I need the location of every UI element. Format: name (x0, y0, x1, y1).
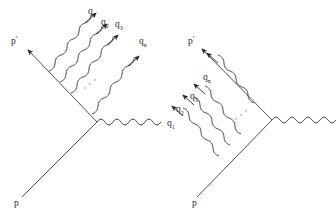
label-q1-left: q1 (88, 6, 96, 18)
label-q2-right: q2 (176, 104, 184, 116)
incoming-fermion-line-left (22, 122, 97, 197)
external-photon-left (97, 119, 161, 125)
ellipsis-right (235, 110, 247, 120)
label-q3-left: q3 (115, 19, 123, 31)
photon-line-left-3 (71, 36, 117, 93)
photon-line-left-n (92, 57, 138, 114)
label-p-left: p (14, 198, 19, 208)
photon-line-left-2 (60, 25, 106, 82)
feynman-diagram-figure: p′ p q1 q2 q3 qn (0, 0, 336, 215)
external-photon-right (272, 117, 336, 123)
label-q3-right: q3 (190, 91, 198, 103)
label-p-right: p (192, 198, 197, 208)
photon-line-right-2 (184, 96, 230, 145)
label-p-prime-right: p′ (188, 35, 195, 46)
label-qn-left: qn (139, 36, 147, 48)
label-p-prime-left: p′ (11, 35, 18, 46)
diagram-left: p′ p q1 q2 q3 qn (11, 6, 161, 208)
label-q1-right: q1 (167, 118, 175, 130)
label-qn-right: qn (203, 72, 211, 84)
ellipsis-left (84, 79, 96, 89)
outgoing-fermion-line-right (203, 50, 272, 120)
incoming-fermion-line-right (197, 120, 272, 197)
outgoing-fermion-line-left (29, 51, 97, 122)
diagram-canvas: p′ p q1 q2 q3 qn (0, 0, 336, 215)
photon-line-left-1 (49, 14, 95, 71)
photon-line-right-3 (195, 85, 241, 134)
diagram-right: p′ p qn q3 q2 q1 (167, 35, 336, 208)
